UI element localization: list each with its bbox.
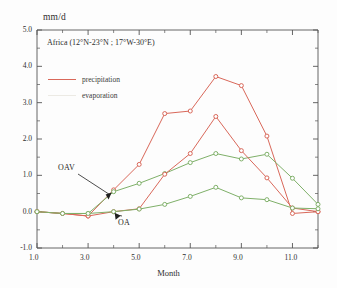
data-point-precipitation-oa: [239, 149, 243, 153]
y-tick-label: -1.0: [10, 243, 32, 252]
data-point-precipitation-oa: [188, 152, 192, 156]
data-point-precipitation-oav: [214, 75, 218, 79]
y-tick-label: 5.0: [10, 25, 32, 34]
data-point-evaporation-oa: [86, 211, 90, 215]
data-point-evaporation-oav: [265, 152, 269, 156]
data-point-evaporation-oav: [290, 176, 294, 180]
y-tick-label: 2.0: [10, 134, 32, 143]
series-line-evaporation-oav: [37, 154, 318, 214]
series-line-precipitation-oav: [37, 77, 318, 217]
annotation-arrow-oav: [78, 174, 110, 195]
series-line-evaporation-oa: [37, 187, 318, 213]
data-point-precipitation-oav: [265, 134, 269, 138]
data-point-precipitation-oav: [163, 112, 167, 116]
data-point-evaporation-oav: [214, 152, 218, 156]
data-point-evaporation-oav: [316, 202, 320, 206]
data-point-evaporation-oa: [290, 206, 294, 210]
data-point-evaporation-oa: [214, 185, 218, 189]
data-point-evaporation-oav: [188, 161, 192, 165]
y-tick-label: 3.0: [10, 98, 32, 107]
data-point-precipitation-oav: [290, 211, 294, 215]
data-point-evaporation-oa: [265, 198, 269, 202]
y-tick-label: 4.0: [10, 61, 32, 70]
x-tick-label: 9.0: [233, 253, 242, 262]
data-point-evaporation-oa: [35, 210, 39, 214]
data-point-evaporation-oa: [163, 202, 167, 206]
data-point-evaporation-oa: [316, 207, 320, 211]
data-point-evaporation-oav: [137, 181, 141, 185]
chart-container: mm/d Africa (12°N-23°N ; 17°W-30°E) prec…: [0, 0, 337, 288]
data-point-evaporation-oa: [239, 196, 243, 200]
annotation-arrowhead-oav: [106, 193, 112, 200]
y-tick-label: 1.0: [10, 170, 32, 179]
data-point-evaporation-oav: [239, 157, 243, 161]
annotation-arrowhead-oa: [115, 213, 121, 220]
data-point-precipitation-oa: [265, 176, 269, 180]
data-point-precipitation-oav: [239, 84, 243, 88]
x-tick-label: 5.0: [131, 253, 140, 262]
y-tick-label: 0.0: [10, 207, 32, 216]
data-point-evaporation-oa: [188, 194, 192, 198]
data-point-evaporation-oa: [137, 207, 141, 211]
x-tick-label: 1.0: [29, 253, 38, 262]
plot-area: [0, 0, 337, 288]
x-tick-label: 7.0: [182, 253, 191, 262]
x-tick-label: 3.0: [80, 253, 89, 262]
data-point-precipitation-oa: [214, 114, 218, 118]
x-tick-label: 11.0: [284, 253, 297, 262]
data-point-precipitation-oav: [188, 109, 192, 113]
series-line-precipitation-oa: [37, 116, 318, 216]
data-point-evaporation-oa: [61, 211, 65, 215]
data-point-precipitation-oav: [137, 162, 141, 166]
data-point-evaporation-oav: [112, 190, 116, 194]
data-point-precipitation-oa: [163, 172, 167, 176]
